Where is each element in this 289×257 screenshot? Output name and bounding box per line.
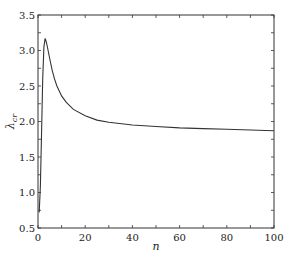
data-series-line	[39, 38, 274, 212]
x-tick-label: 0	[35, 232, 41, 243]
line-chart-svg: 020406080100 0.51.01.52.02.53.03.5 n λcr	[0, 0, 289, 257]
x-tick-label: 40	[126, 232, 139, 243]
axis-ticks	[38, 15, 274, 228]
plot-frame	[38, 15, 274, 228]
y-tick-label: 0.5	[19, 223, 35, 234]
y-tick-label: 2.0	[19, 116, 35, 127]
y-tick-label: 1.0	[19, 187, 35, 198]
x-tick-label: 80	[220, 232, 233, 243]
y-tick-label: 2.5	[19, 81, 35, 92]
y-tick-label: 3.0	[19, 45, 35, 56]
chart: 020406080100 0.51.01.52.02.53.03.5 n λcr	[0, 0, 289, 257]
y-tick-label: 3.5	[19, 10, 35, 21]
y-tick-labels: 0.51.01.52.02.53.03.5	[19, 10, 35, 234]
svg-text:λcr: λcr	[4, 113, 19, 130]
x-tick-label: 60	[173, 232, 186, 243]
y-tick-label: 1.5	[19, 152, 35, 163]
x-tick-label: 100	[264, 232, 283, 243]
x-tick-label: 20	[79, 232, 92, 243]
y-axis-label: λcr	[4, 113, 19, 130]
x-axis-label: n	[152, 240, 159, 253]
